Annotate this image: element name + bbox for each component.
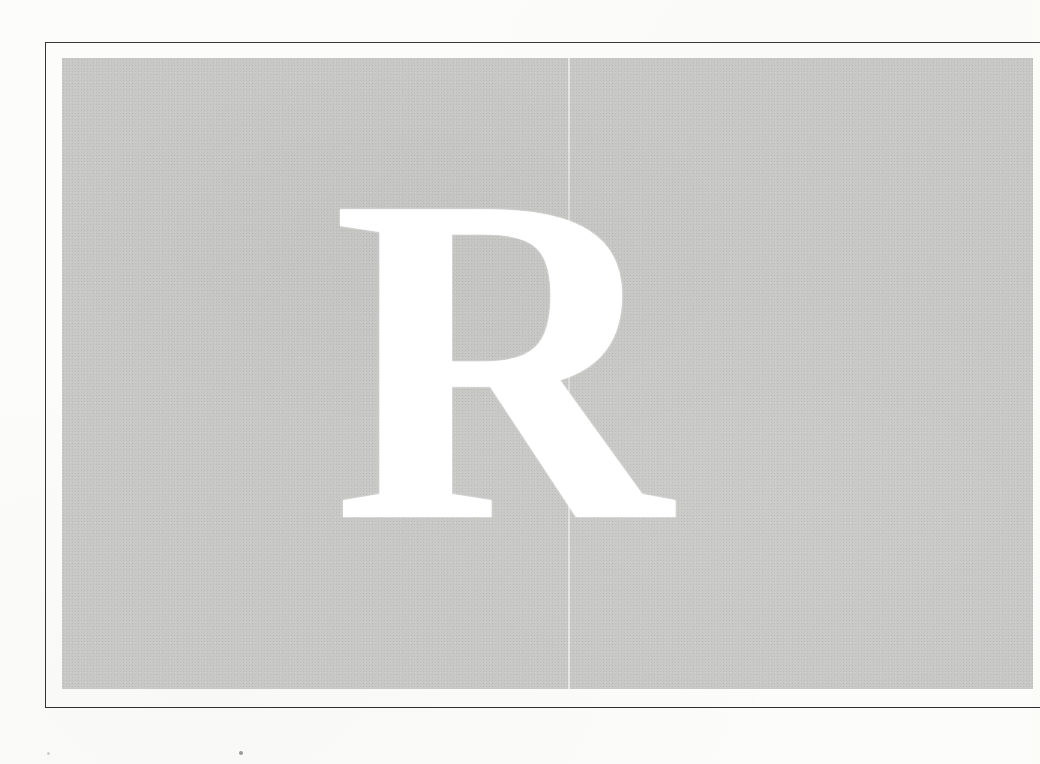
scan-crease-line — [568, 58, 570, 689]
letter-panel: R — [62, 58, 1033, 689]
dust-speck — [239, 751, 243, 755]
dust-speck — [47, 752, 50, 755]
initial-letter-r: R — [332, 124, 671, 594]
